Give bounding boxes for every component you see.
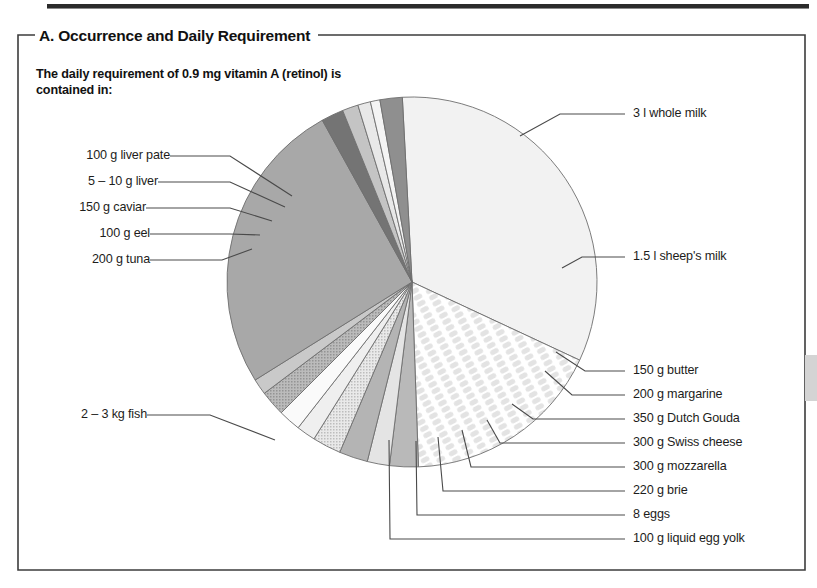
figure-panel: 3 l whole milk1.5 l sheep's milk150 g bu… xyxy=(0,0,817,588)
slice-label-liver: 5 – 10 g liver xyxy=(0,174,158,188)
pie-slices: 3 l whole milk1.5 l sheep's milk150 g bu… xyxy=(227,97,597,467)
panel-subtitle: The daily requirement of 0.9 mg vitamin … xyxy=(36,66,366,99)
slice-label-liquid-egg-yolk: 100 g liquid egg yolk xyxy=(633,531,745,545)
slice-label-butter: 150 g butter xyxy=(633,363,698,377)
slice-label-caviar: 150 g caviar xyxy=(0,200,146,214)
slice-label-whole-milk: 3 l whole milk xyxy=(633,106,707,120)
slice-label-eggs: 8 eggs xyxy=(633,507,670,521)
slice-label-fish: 2 – 3 kg fish xyxy=(0,407,147,421)
slice-label-mozzarella: 300 g mozzarella xyxy=(633,459,727,473)
page-title: A. Occurrence and Daily Requirement xyxy=(35,27,316,45)
slice-label-brie: 220 g brie xyxy=(633,483,688,497)
slice-label-eel: 100 g eel xyxy=(0,226,150,240)
slice-label-tuna: 200 g tuna xyxy=(0,252,150,266)
page-edge-tab xyxy=(805,355,817,401)
slice-label-dutch-gouda: 350 g Dutch Gouda xyxy=(633,411,740,425)
slice-label-liver-pate: 100 g liver pate xyxy=(0,148,170,162)
slice-label-margarine: 200 g margarine xyxy=(633,387,722,401)
slice-label-sheeps-milk: 1.5 l sheep's milk xyxy=(633,249,727,263)
slice-label-swiss-cheese: 300 g Swiss cheese xyxy=(633,435,742,449)
